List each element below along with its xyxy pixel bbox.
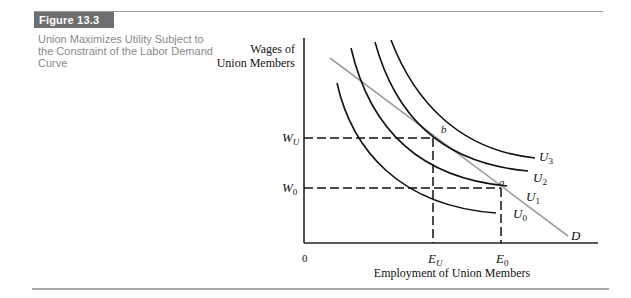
- y-tick-w0: W0: [282, 180, 298, 197]
- curve-label-d: D: [570, 228, 581, 243]
- curve-label-u1: U1: [526, 189, 540, 206]
- origin-label: 0: [302, 252, 308, 264]
- y-tick-wu: WU: [282, 130, 300, 147]
- indifference-curve-u0: [337, 83, 496, 213]
- curve-label-u0: U0: [513, 206, 527, 223]
- indifference-curve-u1: [351, 48, 507, 186]
- curve-label-u2: U2: [533, 170, 547, 187]
- point-a-label: a: [499, 176, 505, 188]
- y-axis-label-line1: Wages of: [250, 42, 295, 56]
- x-axis-label: Employment of Union Members: [374, 266, 531, 280]
- chart: Wages of Union Members b a WU W0 0 EU E0…: [0, 0, 631, 298]
- point-b-label: b: [441, 123, 447, 135]
- bottom-rule: [32, 288, 609, 290]
- y-axis-label-line2: Union Members: [217, 56, 296, 70]
- curve-label-u3: U3: [539, 149, 553, 166]
- indifference-curve-u3: [391, 40, 535, 158]
